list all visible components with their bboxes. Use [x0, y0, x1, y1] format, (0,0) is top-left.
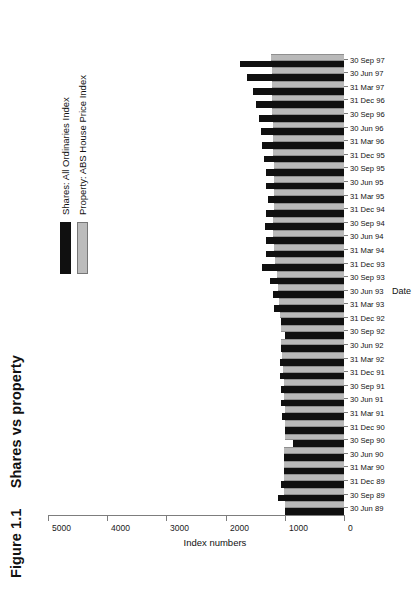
bar-shares [293, 440, 345, 447]
bar-shares [281, 318, 344, 325]
category-tick-mark [344, 480, 348, 481]
bar-group [48, 366, 344, 380]
value-axis-tick-label: 2000 [230, 523, 249, 533]
category-tick-group: 31 Mar 96 [348, 134, 410, 148]
bar-shares [266, 183, 344, 190]
value-axis-tick-label: 0 [348, 523, 353, 533]
bar-group [48, 393, 344, 407]
category-tick-group: 31 Dec 91 [348, 365, 410, 379]
bar-property [273, 230, 344, 237]
category-tick-label: 30 Jun 89 [350, 504, 383, 513]
bar-group [48, 135, 344, 149]
bar-shares [262, 142, 344, 149]
category-tick-label: 30 Sep 93 [350, 273, 385, 282]
bar-group [48, 81, 344, 95]
bar-shares [282, 413, 344, 420]
legend-swatch-shares-icon [60, 222, 71, 274]
bar-shares [266, 251, 344, 258]
category-tick-group: 30 Sep 95 [348, 162, 410, 176]
bar-property [272, 108, 344, 115]
category-tick-mark [344, 208, 348, 209]
value-axis-tick-label: 4000 [111, 523, 130, 533]
category-tick-mark [344, 140, 348, 141]
category-tick-group: 31 Dec 94 [348, 202, 410, 216]
category-tick-group: 30 Sep 97 [348, 53, 410, 67]
category-tick-label: 31 Dec 91 [350, 368, 385, 377]
bar-group [48, 284, 344, 298]
bar-group [48, 501, 344, 515]
category-tick-label: 30 Jun 94 [350, 232, 383, 241]
category-tick-mark [344, 344, 348, 345]
category-tick-group: 30 Jun 91 [348, 393, 410, 407]
value-axis-tick [48, 515, 49, 521]
bar-shares [266, 169, 344, 176]
bar-group [48, 474, 344, 488]
legend-label-property: Property: ABS House Price Index [77, 75, 88, 215]
category-tick-label: 30 Jun 93 [350, 286, 383, 295]
category-tick-label: 31 Mar 95 [350, 191, 384, 200]
bar-group [48, 379, 344, 393]
category-tick-group: 30 Jun 96 [348, 121, 410, 135]
bar-property [280, 312, 344, 319]
category-tick-group: 30 Jun 92 [348, 338, 410, 352]
bar-property [282, 352, 344, 359]
category-tick-mark [344, 99, 348, 100]
bar-property [284, 447, 344, 454]
bar-group [48, 271, 344, 285]
bar-shares [274, 305, 344, 312]
category-tick-group: 31 Dec 96 [348, 94, 410, 108]
category-tick-mark [344, 167, 348, 168]
bar-property [273, 217, 344, 224]
bar-property [284, 393, 344, 400]
bar-group [48, 447, 344, 461]
category-tick-label: 30 Sep 96 [350, 109, 385, 118]
category-tick-label: 30 Sep 97 [350, 55, 385, 64]
category-tick-group: 31 Dec 93 [348, 257, 410, 271]
bar-property [274, 244, 344, 251]
bar-group [48, 434, 344, 448]
bar-property [284, 461, 344, 468]
bar-property [272, 81, 344, 88]
category-tick-label: 31 Dec 93 [350, 259, 385, 268]
category-tick-group: 30 Sep 96 [348, 107, 410, 121]
bar-shares [266, 237, 344, 244]
bar-group [48, 190, 344, 204]
category-tick-label: 30 Sep 91 [350, 381, 385, 390]
bar-group [48, 149, 344, 163]
bar-shares [247, 74, 344, 81]
category-tick-mark [344, 235, 348, 236]
bar-shares [256, 101, 344, 108]
category-tick-group: 30 Sep 93 [348, 270, 410, 284]
category-tick-group: 30 Jun 95 [348, 175, 410, 189]
category-tick-label: 30 Jun 92 [350, 341, 383, 350]
category-tick-label: 31 Mar 96 [350, 137, 384, 146]
bar-shares [278, 495, 344, 502]
category-tick-label: 31 Dec 92 [350, 313, 385, 322]
category-tick-label: 30 Jun 90 [350, 449, 383, 458]
legend-swatch-property-icon [77, 222, 88, 274]
bar-group [48, 108, 344, 122]
bar-property [284, 379, 344, 386]
bar-shares [284, 468, 344, 475]
category-tick-group: 31 Mar 97 [348, 80, 410, 94]
bar-shares [280, 359, 344, 366]
category-tick-label: 30 Sep 92 [350, 327, 385, 336]
category-tick-group: 30 Jun 97 [348, 66, 410, 80]
category-tick-label: 30 Jun 95 [350, 177, 383, 186]
bar-group [48, 339, 344, 353]
bar-shares [262, 264, 344, 271]
bar-property [277, 271, 344, 278]
bar-property [278, 284, 344, 291]
category-tick-label: 31 Mar 92 [350, 354, 384, 363]
bar-property [275, 257, 344, 264]
bar-property [271, 54, 344, 61]
bar-property [274, 190, 344, 197]
bar-group [48, 244, 344, 258]
category-tick-mark [344, 249, 348, 250]
category-tick-label: 30 Sep 95 [350, 164, 385, 173]
bar-group [48, 54, 344, 68]
value-axis-tick [226, 515, 227, 521]
value-axis-tick [344, 515, 345, 521]
category-tick-label: 30 Sep 94 [350, 218, 385, 227]
category-tick-mark [344, 222, 348, 223]
